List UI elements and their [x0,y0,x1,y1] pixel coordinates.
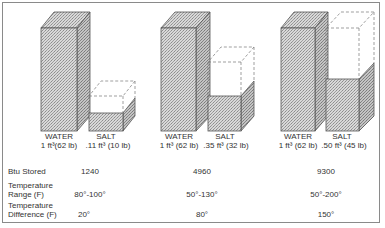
btu-stored-2: 4960 [172,167,232,177]
temp-diff-3: 150° [296,210,356,220]
salt-amount-2: .35 ft³ (32 lb) [198,141,254,150]
btu-stored-1: 1240 [60,167,120,177]
temp-diff-1: 20° [54,210,114,220]
salt-amount-1: .11 ft³ (10 lb) [80,141,136,150]
salt-label-3: SALT [320,132,364,141]
water-label-2: WATER [157,132,201,141]
water-label-3: WATER [276,132,320,141]
water-label-1: WATER [37,132,81,141]
temp-diff-2: 80° [172,210,232,220]
salt-block-1 [89,81,135,131]
row-label-temp-range-line2: Range (F) [8,190,44,200]
water-block-1 [41,12,90,131]
salt-amount-3: .50 ft³ (45 lb) [315,141,373,150]
temp-range-2: 50°-130° [172,190,232,200]
temp-range-1: 80°-100° [60,190,120,200]
row-label-temp-diff-line2: Difference (F) [8,210,57,220]
btu-stored-3: 9300 [296,167,356,177]
water-block-3 [281,12,328,131]
salt-block-3 [326,12,374,131]
temp-range-3: 50°-200° [296,190,356,200]
row-label-btu-stored: Btu Stored [8,167,46,177]
salt-block-2 [208,47,254,131]
salt-label-2: SALT [203,132,247,141]
water-block-2 [161,12,210,131]
salt-label-1: SALT [84,132,128,141]
